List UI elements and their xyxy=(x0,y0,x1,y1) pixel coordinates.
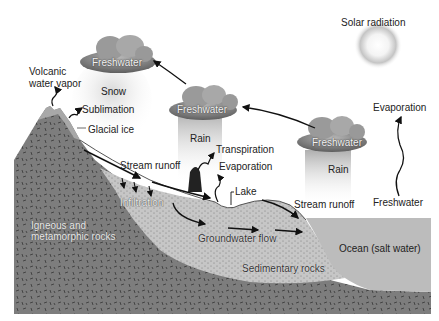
label-cloud-left: Freshwater xyxy=(92,57,142,68)
label-snow: Snow xyxy=(101,86,126,97)
label-groundwater-flow: Groundwater flow xyxy=(198,233,276,244)
label-glacial-ice: Glacial ice xyxy=(88,124,134,135)
label-cloud-right: Freshwater xyxy=(312,137,362,148)
label-stream-runoff-left: Stream runoff xyxy=(120,160,180,171)
lake-pointer xyxy=(231,192,234,205)
label-solar-radiation: Solar radiation xyxy=(341,17,405,28)
label-rain-middle: Rain xyxy=(190,133,211,144)
label-infiltration: Infiltration xyxy=(120,197,163,208)
label-sublimation: Sublimation xyxy=(82,104,134,115)
label-transpiration: Transpiration xyxy=(216,144,274,155)
arrow-cloud-middle-to-left xyxy=(154,61,186,84)
sun-icon xyxy=(354,21,402,69)
label-sedimentary-rocks: Sedimentary rocks xyxy=(242,263,325,274)
label-lake: Lake xyxy=(235,186,257,197)
label-igneous-metamorphic: Igneous and metamorphic rocks xyxy=(31,220,115,242)
label-stream-runoff-right: Stream runoff xyxy=(294,199,354,210)
water-cycle-diagram: Solar radiation Freshwater Freshwater Fr… xyxy=(0,0,439,321)
label-volcanic-line1: Volcanic xyxy=(29,66,66,77)
label-volcanic-water-vapor: Volcanic water vapor xyxy=(29,66,81,90)
label-igneous-line1: Igneous and xyxy=(31,220,86,231)
arrow-cloud-right-to-middle xyxy=(243,107,315,128)
label-rain-right: Rain xyxy=(328,164,349,175)
rain-right xyxy=(305,150,351,206)
label-volcanic-line2: water vapor xyxy=(29,78,81,89)
label-ocean: Ocean (salt water) xyxy=(339,243,421,254)
label-igneous-line2: metamorphic rocks xyxy=(31,231,115,242)
arrow-evaporation-ocean xyxy=(396,117,403,196)
label-evaporation-ocean: Evaporation xyxy=(373,102,426,113)
label-freshwater-ocean: Freshwater xyxy=(373,197,423,208)
label-evaporation-land: Evaporation xyxy=(219,161,272,172)
label-cloud-middle: Freshwater xyxy=(177,104,227,115)
